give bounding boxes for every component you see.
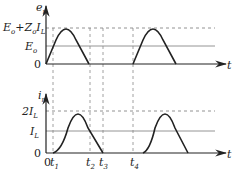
pulse-2 (143, 114, 188, 153)
tick-t2: t2 (86, 157, 95, 171)
level-label-2il: 2IL (22, 106, 38, 120)
x-axis-label-bottom: t (227, 149, 231, 160)
tick-t3: t3 (99, 157, 108, 171)
tick-t1: t1 (50, 157, 59, 171)
y-axis-label-bottom: ir (38, 90, 45, 104)
bottom-plot (46, 94, 226, 153)
level-label-peak: Eo+ZoIL (3, 22, 45, 36)
level-label-e0: Eo (25, 41, 37, 55)
x-axis-label-top: t (227, 60, 231, 71)
waveform-diagram: er Eo+ZoIL Eo 0 t ir 2IL IL 0 t 0 t1 t2 … (0, 0, 233, 172)
y-axis-label-top: er (36, 2, 46, 16)
pulse-1 (53, 114, 103, 153)
top-plot (46, 6, 226, 64)
level-label-il: IL (30, 126, 39, 140)
level-label-zero: 0 (34, 59, 41, 70)
time-guide-lines (53, 28, 133, 152)
pulse-1 (46, 29, 89, 64)
tick-t4: t4 (130, 157, 139, 171)
level-label-zero-bottom: 0 (34, 148, 41, 159)
pulse-2 (133, 29, 176, 64)
